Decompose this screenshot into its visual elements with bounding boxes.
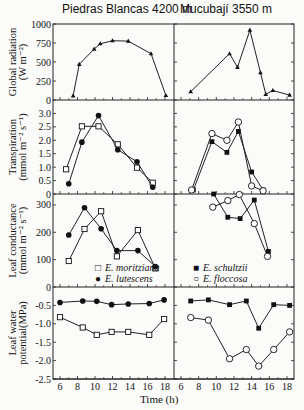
filled-triangle-marker-icon [271, 88, 276, 92]
open-square-marker-icon [134, 165, 139, 170]
filled-square-marker-icon [271, 302, 276, 307]
filled-square-marker-icon [287, 303, 292, 308]
legend-left: □E. moritziana ●E. lutescens [95, 262, 159, 284]
filled-square-marker-icon [249, 170, 254, 175]
filled-square-marker-icon [188, 299, 193, 304]
multi-panel-chart: 66881010121214141616181802505007501000Gl… [0, 0, 304, 410]
open-square-marker-icon [99, 209, 104, 214]
open-square-marker-icon [135, 228, 140, 233]
open-circle-marker-icon [224, 137, 230, 143]
open-circle-marker-icon [225, 197, 231, 203]
svg-text:-2.0: -2.0 [35, 355, 51, 366]
svg-text:2.5: 2.5 [39, 121, 52, 132]
legend-item-lutescens: ●E. lutescens [95, 273, 159, 284]
open-circle-marker-icon [209, 130, 215, 136]
svg-text:14: 14 [125, 381, 135, 392]
filled-circle-marker-icon [82, 205, 88, 211]
filled-square-marker-icon [244, 299, 249, 304]
filled-triangle-marker-icon [248, 28, 253, 32]
filled-circle-marker-icon [114, 248, 120, 254]
open-circle-marker-icon [210, 204, 216, 210]
svg-text:8: 8 [196, 381, 201, 392]
open-square-marker-icon [94, 332, 99, 337]
open-square-marker-icon [80, 325, 85, 330]
open-circle-marker-icon [236, 191, 242, 197]
open-square-marker-icon [64, 167, 69, 172]
svg-text:10: 10 [90, 381, 100, 392]
legend-item-floccosa: ○E. floccosa [193, 273, 247, 284]
filled-square-marker-icon [256, 326, 261, 331]
filled-circle-marker-icon: ● [95, 273, 105, 284]
filled-circle-marker-icon [98, 226, 104, 232]
svg-text:-1.0: -1.0 [35, 318, 51, 329]
filled-square-marker-icon [211, 192, 216, 197]
open-square-marker-icon: □ [95, 262, 105, 273]
svg-text:16: 16 [143, 381, 153, 392]
svg-text:1.5: 1.5 [39, 148, 52, 159]
filled-circle-marker-icon [161, 297, 167, 303]
svg-text:(W m⁻²): (W m⁻²) [17, 43, 29, 80]
filled-circle-marker-icon [79, 139, 85, 145]
svg-text:1.0: 1.0 [39, 162, 52, 173]
filled-square-marker-icon [238, 216, 243, 221]
filled-circle-marker-icon [96, 113, 102, 119]
open-square-marker-icon [57, 315, 62, 320]
open-circle-marker-icon [205, 317, 211, 323]
svg-text:0: 0 [46, 282, 51, 293]
open-circle-marker-icon [251, 220, 257, 226]
svg-text:250: 250 [36, 76, 51, 87]
svg-text:14: 14 [247, 381, 257, 392]
svg-text:(mmol m⁻² s⁻¹): (mmol m⁻² s⁻¹) [17, 113, 29, 181]
open-circle-marker-icon [256, 363, 262, 369]
svg-text:0: 0 [46, 189, 51, 200]
filled-circle-marker-icon [150, 184, 156, 190]
filled-square-marker-icon [225, 215, 230, 220]
filled-square-marker-icon [252, 198, 257, 203]
filled-triangle-marker-icon [164, 93, 169, 97]
open-circle-marker-icon [260, 188, 266, 194]
svg-text:potential(MPa): potential(MPa) [17, 301, 29, 365]
open-square-marker-icon [82, 226, 87, 231]
open-circle-marker-icon [235, 119, 241, 125]
filled-circle-marker-icon [146, 301, 152, 307]
legend-right: ■E. schultzii ○E. floccosa [193, 262, 247, 284]
x-axis-label: Time (h) [140, 393, 178, 405]
svg-text:3.0: 3.0 [39, 108, 52, 119]
filled-circle-marker-icon [135, 248, 141, 254]
svg-text:1000: 1000 [31, 19, 51, 30]
svg-text:16: 16 [264, 381, 274, 392]
open-square-marker-icon [66, 258, 71, 263]
svg-text:100: 100 [36, 254, 51, 265]
open-circle-marker-icon [248, 183, 254, 189]
filled-triangle-marker-icon [227, 51, 232, 55]
svg-text:-2.5: -2.5 [35, 374, 51, 385]
filled-square-marker-icon [227, 302, 232, 307]
open-square-marker-icon [126, 329, 131, 334]
filled-square-marker-icon: ■ [193, 262, 203, 273]
svg-text:-0.5: -0.5 [35, 300, 51, 311]
filled-circle-marker-icon [66, 232, 72, 238]
svg-text:6: 6 [58, 381, 63, 392]
filled-square-marker-icon [206, 297, 211, 302]
open-square-marker-icon [114, 254, 119, 259]
svg-text:18: 18 [282, 381, 292, 392]
open-square-marker-icon [79, 124, 84, 129]
filled-circle-marker-icon [94, 299, 100, 305]
open-square-marker-icon [96, 124, 101, 129]
open-square-marker-icon [162, 316, 167, 321]
filled-triangle-marker-icon [71, 93, 76, 97]
svg-text:12: 12 [229, 381, 239, 392]
open-circle-marker-icon: ○ [193, 273, 203, 284]
filled-circle-marker-icon [57, 300, 63, 306]
svg-text:(mmol m⁻² s⁻¹): (mmol m⁻² s⁻¹) [17, 206, 29, 274]
svg-text:500: 500 [36, 57, 51, 68]
open-circle-marker-icon [188, 187, 194, 193]
open-circle-marker-icon [286, 329, 292, 335]
open-circle-marker-icon [226, 356, 232, 362]
filled-triangle-marker-icon [258, 70, 263, 74]
svg-text:12: 12 [108, 381, 118, 392]
filled-circle-marker-icon [66, 181, 72, 187]
open-square-marker-icon [147, 332, 152, 337]
filled-circle-marker-icon [80, 298, 86, 304]
svg-text:300: 300 [36, 199, 51, 210]
